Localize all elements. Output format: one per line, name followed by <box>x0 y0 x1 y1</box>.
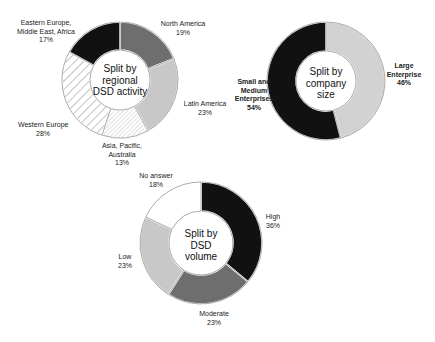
label-text: Enterprise <box>384 71 424 80</box>
label-text: Asia, Pacific, <box>100 142 144 151</box>
label-text: Eastern Europe, <box>16 19 76 28</box>
center-line: Split by <box>90 63 150 75</box>
label-value: 28% <box>18 130 68 139</box>
label-text: Large <box>384 62 424 71</box>
charts-canvas <box>0 0 435 342</box>
center-line: Split by <box>171 228 231 240</box>
label-value: 54% <box>232 104 276 113</box>
center-line: regional <box>90 75 150 87</box>
center-line: volume <box>171 251 231 263</box>
label-text: Medium <box>232 87 276 96</box>
volume-center-label: Split by DSD volume <box>171 228 231 263</box>
center-line: DSD <box>171 240 231 252</box>
label-value: 19% <box>158 29 208 38</box>
label-text: No answer <box>135 172 177 181</box>
label-text: Latin America <box>180 100 230 109</box>
label-value: 13% <box>100 159 144 168</box>
label-no-answer: No answer 18% <box>135 172 177 189</box>
label-value: 18% <box>135 181 177 190</box>
label-text: Enterprises <box>232 95 276 104</box>
label-text: Australia <box>100 151 144 160</box>
label-western-europe: Western Europe 28% <box>18 121 68 138</box>
label-text: Moderate <box>194 310 234 319</box>
label-eastern-europe: Eastern Europe, Middle East, Africa 17% <box>16 19 76 45</box>
label-moderate: Moderate 23% <box>194 310 234 327</box>
label-high: High 36% <box>258 213 288 230</box>
regional-center-label: Split by regional DSD activity <box>90 63 150 98</box>
label-sme: Small and Medium Enterprises 54% <box>232 78 276 112</box>
label-asia-pacific: Asia, Pacific, Australia 13% <box>100 142 144 168</box>
label-value: 46% <box>384 79 424 88</box>
label-large-enterprise: Large Enterprise 46% <box>384 62 424 88</box>
center-line: DSD activity <box>90 86 150 98</box>
label-low: Low 23% <box>112 253 138 270</box>
label-text: Small and <box>232 78 276 87</box>
label-value: 17% <box>16 36 76 45</box>
label-text: North America <box>158 20 208 29</box>
label-text: Low <box>112 253 138 262</box>
center-line: Split by <box>296 66 356 78</box>
label-text: High <box>258 213 288 222</box>
label-value: 23% <box>194 319 234 328</box>
label-text: Western Europe <box>18 121 68 130</box>
label-text: Middle East, Africa <box>16 28 76 37</box>
label-value: 23% <box>112 262 138 271</box>
label-latin-america: Latin America 23% <box>180 100 230 117</box>
center-line: size <box>296 89 356 101</box>
label-value: 23% <box>180 109 230 118</box>
center-line: company <box>296 78 356 90</box>
label-north-america: North America 19% <box>158 20 208 37</box>
label-value: 36% <box>258 222 288 231</box>
company-center-label: Split by company size <box>296 66 356 101</box>
